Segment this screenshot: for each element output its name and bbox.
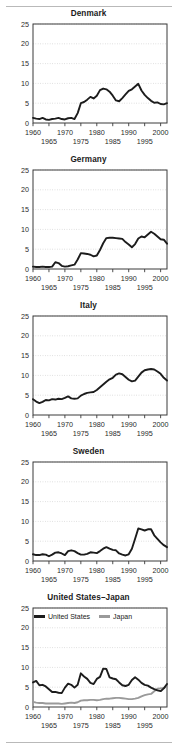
svg-text:20: 20 (21, 623, 29, 632)
legend-entry-united-states: United States (34, 613, 90, 620)
chart-panel-italy: Italy 0510152025196019701980199020001965… (0, 299, 177, 445)
svg-text:10: 10 (21, 517, 29, 526)
svg-text:1975: 1975 (73, 283, 89, 292)
chart-panel-us-japan: United States–Japan 05101520251960197019… (0, 591, 177, 737)
legend-swatch-japan-icon (99, 615, 110, 618)
svg-text:10: 10 (21, 663, 29, 672)
svg-text:1975: 1975 (73, 137, 89, 146)
svg-text:5: 5 (25, 391, 29, 400)
svg-text:2000: 2000 (153, 128, 169, 137)
legend-swatch-united-states-icon (34, 615, 45, 618)
svg-text:1980: 1980 (89, 128, 105, 137)
svg-text:5: 5 (25, 99, 29, 108)
svg-text:0: 0 (25, 411, 29, 420)
svg-text:1980: 1980 (89, 420, 105, 429)
svg-text:1990: 1990 (121, 274, 137, 283)
svg-text:15: 15 (21, 643, 29, 652)
svg-text:1970: 1970 (57, 420, 73, 429)
svg-text:0: 0 (25, 265, 29, 274)
svg-text:0: 0 (25, 119, 29, 128)
svg-text:1985: 1985 (105, 137, 121, 146)
chart-panel-germany: Germany 05101520251960197019801990200019… (0, 153, 177, 299)
svg-text:1965: 1965 (41, 429, 57, 438)
svg-text:1995: 1995 (137, 429, 153, 438)
legend-label-japan: Japan (113, 613, 132, 620)
svg-text:25: 25 (21, 312, 29, 321)
svg-text:1990: 1990 (121, 128, 137, 137)
svg-text:1960: 1960 (25, 274, 41, 283)
svg-text:1975: 1975 (73, 721, 89, 730)
svg-text:10: 10 (21, 225, 29, 234)
svg-text:1980: 1980 (89, 274, 105, 283)
svg-text:1995: 1995 (137, 137, 153, 146)
svg-text:25: 25 (21, 166, 29, 175)
legend-entry-japan: Japan (99, 613, 132, 620)
svg-text:1990: 1990 (121, 712, 137, 721)
svg-text:2000: 2000 (153, 274, 169, 283)
svg-text:2000: 2000 (153, 712, 169, 721)
svg-text:0: 0 (25, 703, 29, 712)
plot-area-denmark: 0510152025196019701980199020001965197519… (0, 7, 177, 153)
svg-text:2000: 2000 (153, 566, 169, 575)
svg-text:5: 5 (25, 537, 29, 546)
svg-text:1990: 1990 (121, 566, 137, 575)
svg-text:10: 10 (21, 79, 29, 88)
svg-text:1985: 1985 (105, 721, 121, 730)
svg-text:1980: 1980 (89, 712, 105, 721)
svg-text:0: 0 (25, 557, 29, 566)
legend-label-united-states: United States (48, 613, 90, 620)
svg-text:1990: 1990 (121, 420, 137, 429)
plot-area-italy: 0510152025196019701980199020001965197519… (0, 299, 177, 445)
svg-text:1965: 1965 (41, 575, 57, 584)
svg-text:15: 15 (21, 205, 29, 214)
svg-text:2000: 2000 (153, 420, 169, 429)
svg-text:1985: 1985 (105, 575, 121, 584)
svg-text:1965: 1965 (41, 137, 57, 146)
figure-page: Denmark 05101520251960197019801990200019… (0, 0, 177, 743)
svg-text:5: 5 (25, 245, 29, 254)
svg-text:1985: 1985 (105, 429, 121, 438)
svg-text:1975: 1975 (73, 575, 89, 584)
chart-legend: United States Japan (34, 613, 132, 620)
svg-text:1995: 1995 (137, 721, 153, 730)
svg-text:1960: 1960 (25, 420, 41, 429)
svg-text:1970: 1970 (57, 274, 73, 283)
svg-text:1960: 1960 (25, 712, 41, 721)
svg-text:10: 10 (21, 371, 29, 380)
svg-text:1970: 1970 (57, 128, 73, 137)
svg-text:25: 25 (21, 458, 29, 467)
chart-panel-denmark: Denmark 05101520251960197019801990200019… (0, 7, 177, 153)
svg-text:15: 15 (21, 497, 29, 506)
svg-text:1995: 1995 (137, 283, 153, 292)
svg-text:5: 5 (25, 683, 29, 692)
svg-text:1965: 1965 (41, 283, 57, 292)
svg-text:1970: 1970 (57, 566, 73, 575)
svg-text:20: 20 (21, 39, 29, 48)
svg-text:15: 15 (21, 59, 29, 68)
chart-panel-sweden: Sweden 051015202519601970198019902000196… (0, 445, 177, 591)
svg-text:25: 25 (21, 604, 29, 613)
svg-text:15: 15 (21, 351, 29, 360)
svg-text:1985: 1985 (105, 283, 121, 292)
svg-text:20: 20 (21, 331, 29, 340)
svg-text:1960: 1960 (25, 128, 41, 137)
svg-text:1970: 1970 (57, 712, 73, 721)
svg-text:20: 20 (21, 477, 29, 486)
svg-text:1960: 1960 (25, 566, 41, 575)
plot-area-germany: 0510152025196019701980199020001965197519… (0, 153, 177, 299)
svg-text:20: 20 (21, 185, 29, 194)
chart-panel-stack: Denmark 05101520251960197019801990200019… (0, 7, 177, 738)
svg-text:25: 25 (21, 20, 29, 29)
svg-text:1975: 1975 (73, 429, 89, 438)
svg-text:1965: 1965 (41, 721, 57, 730)
plot-area-sweden: 0510152025196019701980199020001965197519… (0, 445, 177, 591)
svg-text:1995: 1995 (137, 575, 153, 584)
svg-text:1980: 1980 (89, 566, 105, 575)
